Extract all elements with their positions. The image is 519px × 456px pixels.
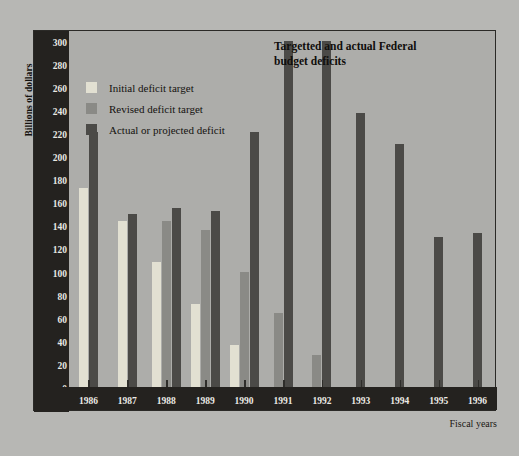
x-axis-year-label: 1986 xyxy=(79,396,98,406)
bar-1989-series-0 xyxy=(191,304,200,387)
x-axis-year-label: 1987 xyxy=(118,396,137,406)
x-axis-tick-mark xyxy=(439,380,441,387)
y-axis-tick-label: 180 xyxy=(53,175,67,187)
bar-1986-series-0 xyxy=(79,188,88,387)
x-axis-tick-mark xyxy=(244,380,246,387)
bar-1991-series-1 xyxy=(274,313,283,387)
y-axis-tick-label: 160 xyxy=(53,198,67,210)
legend-item-label: Revised deficit target xyxy=(109,103,203,115)
x-axis-year-label: 1988 xyxy=(157,396,176,406)
bar-1990-series-0 xyxy=(230,345,239,387)
chart-title-line-2: budget deficits xyxy=(274,54,489,69)
y-axis-tick-label: 60 xyxy=(58,314,68,326)
x-axis-year-label: 1996 xyxy=(468,396,487,406)
y-axis-band: 0204060801001201401601802002202402602803… xyxy=(34,31,69,412)
x-axis-tick-mark xyxy=(205,380,207,387)
y-axis-tick-label: 120 xyxy=(53,244,67,256)
bar-1996-series-2 xyxy=(473,233,482,387)
y-axis-tick-label: 80 xyxy=(58,291,68,303)
legend-item: Actual or projected deficit xyxy=(86,119,225,140)
legend-swatch-icon xyxy=(86,82,97,93)
y-axis-tick-label: 280 xyxy=(53,60,67,72)
x-axis-year-label: 1990 xyxy=(235,396,254,406)
bar-1990-series-2 xyxy=(250,132,259,387)
y-axis-tick-label: 260 xyxy=(53,83,67,95)
bar-1989-series-1 xyxy=(201,230,210,387)
chart-title: Targetted and actual Federal budget defi… xyxy=(274,39,489,69)
legend-item-label: Actual or projected deficit xyxy=(109,124,225,136)
y-axis-tick-label: 200 xyxy=(53,152,67,164)
x-axis-tick-mark xyxy=(127,380,129,387)
bar-1989-series-2 xyxy=(211,211,220,387)
y-axis-tick-label: 140 xyxy=(53,221,67,233)
x-axis-tick-mark xyxy=(478,380,480,387)
chart-figure: Billions of dollars 02040608010012014016… xyxy=(0,0,519,456)
legend-swatch-icon xyxy=(86,103,97,114)
bar-1988-series-2 xyxy=(172,208,181,387)
y-axis-tick-label: 20 xyxy=(58,360,68,372)
bar-1988-series-1 xyxy=(162,221,171,387)
bar-1986-series-2 xyxy=(89,132,98,387)
x-axis-tick-mark xyxy=(166,380,168,387)
y-axis-tick-label: 220 xyxy=(53,129,67,141)
y-axis-tick-label: 240 xyxy=(53,106,67,118)
bar-1988-series-0 xyxy=(152,262,161,387)
legend-item: Initial deficit target xyxy=(86,77,225,98)
chart-frame: 0204060801001201401601802002202402602803… xyxy=(33,30,496,411)
bar-1994-series-2 xyxy=(395,144,404,387)
x-axis-year-label: 1989 xyxy=(196,396,215,406)
x-axis-title: Fiscal years xyxy=(450,418,498,429)
bar-1990-series-1 xyxy=(240,272,249,387)
x-axis-year-label: 1995 xyxy=(429,396,448,406)
legend-item-label: Initial deficit target xyxy=(109,82,194,94)
chart-legend: Initial deficit target Revised deficit t… xyxy=(86,77,225,140)
x-axis-year-label: 1993 xyxy=(351,396,370,406)
y-axis-tick-label: 300 xyxy=(53,37,67,49)
x-axis-band: 1986198719881989199019911992199319941995… xyxy=(34,387,497,410)
x-axis-year-label: 1992 xyxy=(312,396,331,406)
y-axis-tick-label: 100 xyxy=(53,268,67,280)
x-axis-tick-mark xyxy=(88,380,90,387)
y-axis-tick-label: 40 xyxy=(58,337,68,349)
x-axis-year-label: 1991 xyxy=(274,396,293,406)
bar-1987-series-2 xyxy=(128,214,137,387)
bar-1992-series-2 xyxy=(322,41,331,387)
bar-1987-series-0 xyxy=(118,221,127,387)
x-axis-tick-mark xyxy=(322,380,324,387)
chart-title-line-1: Targetted and actual Federal xyxy=(274,39,489,54)
x-axis-year-label: 1994 xyxy=(390,396,409,406)
bar-1995-series-2 xyxy=(434,237,443,387)
bar-1993-series-2 xyxy=(356,113,365,387)
legend-item: Revised deficit target xyxy=(86,98,225,119)
x-axis-tick-mark xyxy=(400,380,402,387)
x-axis-tick-mark xyxy=(361,380,363,387)
bar-1992-series-1 xyxy=(312,355,321,387)
bar-1991-series-2 xyxy=(284,41,293,387)
x-axis-tick-mark xyxy=(283,380,285,387)
legend-swatch-icon xyxy=(86,124,97,135)
